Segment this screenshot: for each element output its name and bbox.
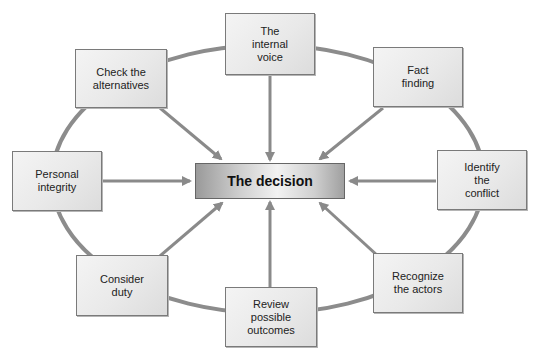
node-identify-conflict: Identify the conflict (437, 150, 527, 210)
node-consider-duty: Consider duty (76, 255, 168, 316)
arrow-recognize-actors (320, 203, 378, 256)
node-label: Personal integrity (35, 168, 78, 194)
node-label: Review possible outcomes (247, 298, 295, 337)
node-label: Check the alternatives (93, 66, 149, 92)
arrow-fact-finding (320, 108, 383, 159)
arrow-check-alternatives (160, 108, 221, 159)
node-label: The internal voice (252, 25, 288, 64)
node-check-alternatives: Check the alternatives (75, 49, 167, 108)
node-personal-integrity: Personal integrity (12, 151, 102, 211)
node-fact-finding: Fact finding (373, 47, 463, 107)
node-label: Fact finding (402, 64, 434, 90)
decision-box: The decision (195, 163, 345, 199)
node-review-outcomes: Review possible outcomes (225, 287, 317, 347)
node-label: Identify the conflict (464, 161, 499, 200)
node-label: Recognize the actors (392, 270, 444, 296)
node-internal-voice: The internal voice (225, 13, 315, 75)
node-label: Consider duty (100, 273, 144, 299)
node-recognize-actors: Recognize the actors (373, 253, 463, 313)
arrow-consider-duty (160, 203, 222, 256)
decision-label: The decision (227, 173, 313, 189)
